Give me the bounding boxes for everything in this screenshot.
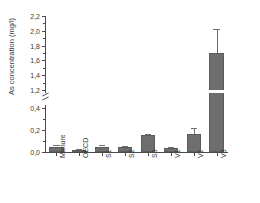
y-minor-tick xyxy=(43,23,45,24)
error-bar xyxy=(217,29,218,53)
x-tick-label: OECD xyxy=(82,138,89,158)
error-bar-cap xyxy=(145,134,151,135)
y-minor-tick xyxy=(43,53,45,54)
y-tick xyxy=(42,16,45,17)
error-bar-cap xyxy=(168,147,174,148)
error-bar-cap xyxy=(191,128,197,129)
y-tick-label: 1,8 xyxy=(30,42,40,49)
y-tick xyxy=(42,152,45,153)
x-tick xyxy=(102,153,103,156)
y-minor-tick xyxy=(43,119,45,120)
y-tick-label: 1,4 xyxy=(30,72,40,79)
y-minor-tick xyxy=(43,83,45,84)
y-minor-tick xyxy=(43,68,45,69)
x-tick-label: V3 xyxy=(220,149,227,158)
y-axis-title: As concentration (mg/l) xyxy=(7,2,16,112)
x-tick-label: S3 xyxy=(151,149,158,158)
y-tick xyxy=(42,60,45,61)
y-tick-label: 0,0 xyxy=(30,149,40,156)
y-tick xyxy=(42,130,45,131)
y-tick-label: 2,2 xyxy=(30,13,40,20)
y-tick-label: 0,4 xyxy=(30,105,40,112)
x-tick-label: S2 xyxy=(128,149,135,158)
y-axis-line xyxy=(45,16,46,152)
x-tick xyxy=(171,153,172,156)
x-tick-label: V2 xyxy=(197,149,204,158)
x-tick xyxy=(217,153,218,156)
y-tick-label: 0,2 xyxy=(30,127,40,134)
x-tick xyxy=(125,153,126,156)
bar-break-gap xyxy=(208,90,224,93)
error-bar-cap xyxy=(122,146,128,147)
y-tick xyxy=(42,46,45,47)
x-tick-label: S1 xyxy=(105,149,112,158)
bar xyxy=(209,53,223,152)
y-tick-label: 2,0 xyxy=(30,27,40,34)
y-tick-label: 1,6 xyxy=(30,57,40,64)
x-tick xyxy=(194,153,195,156)
error-bar-cap xyxy=(213,29,219,30)
y-tick xyxy=(42,108,45,109)
y-tick xyxy=(42,75,45,76)
x-tick xyxy=(148,153,149,156)
y-tick-label: 1,2 xyxy=(30,87,40,94)
chart-figure: As concentration (mg/l) 0,00,20,41,21,41… xyxy=(0,0,260,203)
x-tick xyxy=(79,153,80,156)
y-tick xyxy=(42,90,45,91)
x-tick xyxy=(56,153,57,156)
x-tick-label: Manure xyxy=(59,134,66,158)
y-minor-tick xyxy=(43,38,45,39)
y-minor-tick xyxy=(43,141,45,142)
y-tick xyxy=(42,31,45,32)
error-bar-cap xyxy=(99,145,105,146)
x-tick-label: V1 xyxy=(174,149,181,158)
